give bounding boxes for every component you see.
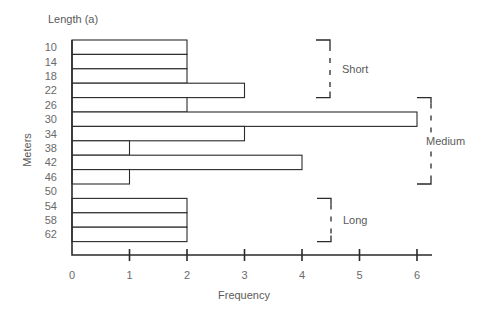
bar-46: [72, 170, 130, 184]
bar-38: [72, 141, 130, 155]
bar-42: [72, 155, 302, 169]
bar-10: [72, 40, 187, 54]
y-axis-label: Meters: [21, 133, 33, 167]
bracket-bottom: [417, 178, 431, 184]
bar-62: [72, 227, 187, 241]
y-tick-label: 46: [45, 171, 57, 183]
y-tick-label: 58: [45, 214, 57, 226]
bracket-top: [316, 40, 330, 46]
bracket-top: [417, 98, 431, 104]
x-tick-label: 5: [356, 269, 362, 281]
histogram-chart: Length (a) Meters Frequency 101418222630…: [0, 0, 487, 318]
x-tick-label: 2: [184, 269, 190, 281]
x-tick-label: 0: [69, 269, 75, 281]
x-ticks: 0123456: [69, 249, 420, 281]
bar-18: [72, 69, 187, 83]
y-tick-label: 38: [45, 142, 57, 154]
bracket-bottom: [316, 92, 330, 98]
x-axis-label: Frequency: [218, 289, 270, 301]
bar-14: [72, 54, 187, 68]
bar-34: [72, 126, 245, 140]
bar-26: [72, 98, 187, 112]
y-tick-label: 26: [45, 99, 57, 111]
y-tick-label: 10: [45, 41, 57, 53]
x-tick-label: 6: [414, 269, 420, 281]
bracket-bottom: [317, 236, 331, 242]
x-tick-label: 4: [299, 269, 305, 281]
bar-54: [72, 198, 187, 212]
x-tick-label: 3: [241, 269, 247, 281]
group-brackets: ShortMediumLong: [316, 40, 476, 242]
bracket-top: [317, 198, 331, 204]
y-tick-label: 34: [45, 128, 57, 140]
group-label-long: Long: [343, 214, 367, 226]
y-tick-label: 50: [45, 185, 57, 197]
y-tick-label: 22: [45, 84, 57, 96]
x-tick-label: 1: [126, 269, 132, 281]
chart-title: Length (a): [48, 13, 98, 25]
group-label-short: Short: [342, 63, 368, 75]
y-tick-label: 30: [45, 113, 57, 125]
y-tick-label: 42: [45, 156, 57, 168]
y-tick-label: 62: [45, 228, 57, 240]
group-label-medium: Medium: [426, 135, 465, 147]
bar-58: [72, 213, 187, 227]
bar-22: [72, 83, 245, 97]
y-tick-labels: 1014182226303438424650545862: [45, 41, 57, 240]
y-tick-label: 18: [45, 70, 57, 82]
y-tick-label: 14: [45, 56, 57, 68]
bar-30: [72, 112, 417, 126]
y-tick-label: 54: [45, 200, 57, 212]
